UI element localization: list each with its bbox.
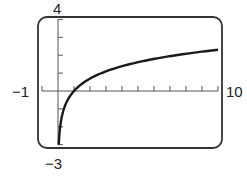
ymin-label: −3 bbox=[45, 156, 62, 171]
ymax-label: 4 bbox=[53, 1, 61, 16]
xmin-label: −1 bbox=[12, 84, 29, 99]
axes bbox=[42, 19, 218, 144]
graph-window bbox=[0, 0, 247, 181]
xmax-label: 10 bbox=[226, 84, 243, 99]
window-frame bbox=[38, 17, 222, 148]
curve-ln-x bbox=[59, 50, 218, 145]
